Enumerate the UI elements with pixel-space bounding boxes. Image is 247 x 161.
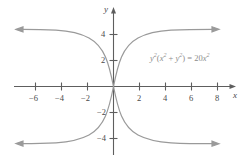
equation-equals: = <box>185 53 194 63</box>
equation-rhs-exp: 2 <box>206 52 209 58</box>
x-axis <box>14 84 236 89</box>
equation-coefficient: 20 <box>194 53 203 63</box>
curve-branch-upper-left <box>16 27 114 87</box>
x-tick-label-neg4: −4 <box>55 94 64 103</box>
y-tick-label-4: 4 <box>101 30 105 39</box>
x-tick-label-6: 6 <box>189 94 193 103</box>
y-tick-label-neg2: −2 <box>97 108 106 117</box>
x-tick-label-neg6: −6 <box>29 94 38 103</box>
curve-plot <box>0 0 247 161</box>
x-axis-label: x <box>233 91 237 100</box>
y-tick-label-2: 2 <box>101 56 105 65</box>
y-axis-label: y <box>104 5 108 14</box>
x-tick-label-2: 2 <box>137 94 141 103</box>
y-tick-label-neg4: −4 <box>97 134 106 143</box>
graph-figure: −6 −4 −2 2 4 6 8 4 2 −2 −4 y x y2(x2 + y… <box>0 0 247 161</box>
x-tick-label-4: 4 <box>163 94 167 103</box>
x-tick-label-neg2: −2 <box>81 94 90 103</box>
x-tick-label-8: 8 <box>215 94 219 103</box>
equation-annotation: y2(x2 + y2) = 20x2 <box>150 52 209 62</box>
